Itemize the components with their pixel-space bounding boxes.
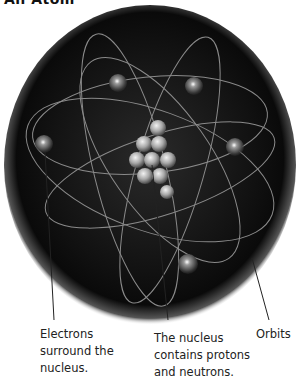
atom-illustration xyxy=(0,0,298,379)
orbits-label: Orbits xyxy=(256,326,296,343)
nucleus-label: The nucleus contains protons and neutron… xyxy=(154,330,254,379)
electrons-label: Electrons surround the nucleus. xyxy=(40,326,122,377)
